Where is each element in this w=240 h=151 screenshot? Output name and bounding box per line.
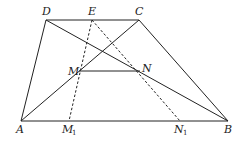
label-N: N — [141, 62, 152, 75]
segment-BC — [139, 20, 228, 121]
label-A: A — [15, 123, 24, 136]
label-N1-subscript: 1 — [183, 129, 187, 137]
label-C: C — [135, 5, 144, 18]
label-M1-subscript: 1 — [72, 129, 76, 137]
label-E: E — [87, 5, 96, 18]
label-M: M — [67, 65, 80, 78]
solid-lines — [21, 20, 228, 121]
geometry-diagram: D E C M N A M 1 N 1 B — [0, 0, 240, 151]
label-D: D — [41, 5, 51, 18]
segment-DA — [21, 20, 46, 121]
label-B: B — [223, 123, 232, 136]
